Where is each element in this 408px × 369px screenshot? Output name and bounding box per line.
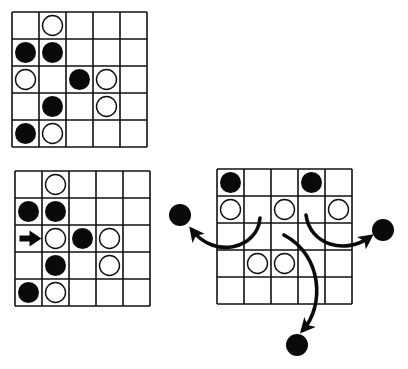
white-stone <box>43 16 63 36</box>
white-stone <box>100 229 120 249</box>
white-stone <box>46 175 66 195</box>
black-stone <box>220 172 241 193</box>
white-stone <box>329 200 349 220</box>
boards-layer <box>12 12 352 306</box>
black-stone <box>69 69 90 90</box>
board-top-left <box>12 12 147 147</box>
board-bottom-left <box>15 171 150 306</box>
black-stone <box>301 172 322 193</box>
black-stone <box>15 42 36 63</box>
black-stone <box>18 282 39 303</box>
black-stone <box>15 123 36 144</box>
black-stone <box>42 42 63 63</box>
captured-stone-right <box>372 219 394 241</box>
black-stone <box>45 201 66 222</box>
black-stone <box>18 201 39 222</box>
white-stone <box>46 283 66 303</box>
captured-stone-bottom <box>286 334 308 356</box>
white-stone <box>100 256 120 276</box>
captured-stones-layer <box>169 204 394 356</box>
white-stone <box>46 229 66 249</box>
captured-stone-left <box>169 204 191 226</box>
black-stone <box>42 96 63 117</box>
white-stone <box>275 200 295 220</box>
go-capture-diagram <box>0 0 408 369</box>
black-stone <box>72 228 93 249</box>
white-stone <box>248 254 268 274</box>
white-stone <box>97 97 117 117</box>
white-stone <box>16 70 36 90</box>
arrow-marker-icon <box>20 231 42 247</box>
white-stone <box>221 200 241 220</box>
white-stone <box>43 124 63 144</box>
white-stone <box>275 254 295 274</box>
white-stone <box>97 70 117 90</box>
black-stone <box>45 255 66 276</box>
